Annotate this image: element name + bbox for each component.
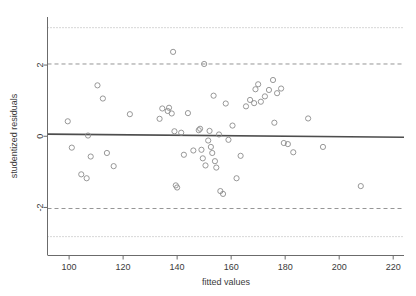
y-tick-label: 2 [35,63,45,68]
plot-background [0,0,416,296]
y-tick-label: 0 [35,134,45,139]
chart-canvas: 20-2 100120140160180200220 fitted values… [0,0,416,296]
y-tick-label: -2 [35,203,45,211]
x-tick-label: 160 [224,262,239,272]
x-tick-label: 140 [170,262,185,272]
x-tick-label: 120 [116,262,131,272]
x-tick-label: 220 [386,262,401,272]
y-axis-label: studentized residuals [9,93,19,178]
x-tick-label: 100 [62,262,77,272]
x-tick-label: 200 [332,262,347,272]
scatter-plot-figure: 20-2 100120140160180200220 fitted values… [0,0,416,296]
x-tick-label: 180 [278,262,293,272]
x-axis-label: fitted values [202,277,251,287]
